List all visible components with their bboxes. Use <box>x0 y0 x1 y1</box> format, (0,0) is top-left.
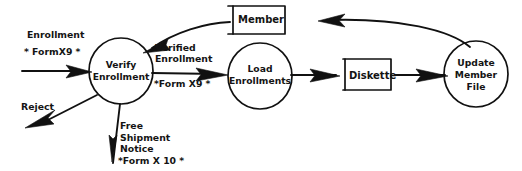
process-load-enrollments[interactable]: Load Enrollments <box>228 43 292 109</box>
flow-label-verified-enrollment-form: *Form X9 * <box>154 78 211 89</box>
process-update-member-file[interactable]: Update Member File <box>444 41 508 107</box>
data-store-member[interactable]: Member <box>228 6 285 34</box>
data-store-diskette[interactable]: Diskette <box>343 59 396 90</box>
flow-label-enrollment-in: Enrollment * FormX9 * <box>24 29 85 57</box>
data-flow-diagram: Member Diskette Verify Enrollment Load E… <box>0 0 522 171</box>
process-update-member-file-label-line2: Member <box>455 69 498 80</box>
flow-enrollment-in <box>22 65 92 78</box>
process-update-member-file-label-line1: Update <box>457 57 494 68</box>
process-verify-enrollment[interactable]: Verify Enrollment <box>89 38 153 104</box>
process-load-enrollments-label-line1: Load <box>248 63 273 74</box>
flow-label-free-shipment-notice: Free Shipment Notice *Form X 10 * <box>118 120 184 166</box>
flow-label-free-shipment-notice-form: *Form X 10 * <box>118 155 184 166</box>
data-store-diskette-label: Diskette <box>349 70 396 81</box>
flow-label-verified-enrollment-line2: Enrollment <box>155 53 213 64</box>
flow-label-enrollment-in-text: Enrollment <box>27 29 85 40</box>
diagram-canvas: Member Diskette Verify Enrollment Load E… <box>0 0 522 171</box>
flow-label-free-shipment-notice-line3: Notice <box>120 143 154 154</box>
flow-label-reject: Reject <box>21 101 54 112</box>
flow-label-free-shipment-notice-line1: Free <box>120 120 143 131</box>
flow-label-verified-enrollment-line1: Verified <box>155 42 196 53</box>
flow-label-verified-enrollment: Verified Enrollment *Form X9 * <box>154 42 213 89</box>
flow-label-enrollment-in-form: * FormX9 * <box>24 46 81 57</box>
process-verify-enrollment-label-line2: Enrollment <box>93 71 150 82</box>
flow-enrollments-to-diskette <box>291 69 340 82</box>
flow-diskette-to-update <box>395 69 448 82</box>
process-update-member-file-label-line3: File <box>467 81 486 92</box>
flow-update-to-member <box>318 14 470 47</box>
data-store-member-label: Member <box>238 14 284 25</box>
process-verify-enrollment-label-line1: Verify <box>106 59 137 70</box>
flow-label-free-shipment-notice-line2: Shipment <box>120 132 171 143</box>
flow-label-reject-text: Reject <box>21 101 54 112</box>
process-load-enrollments-label-line2: Enrollments <box>229 75 292 86</box>
